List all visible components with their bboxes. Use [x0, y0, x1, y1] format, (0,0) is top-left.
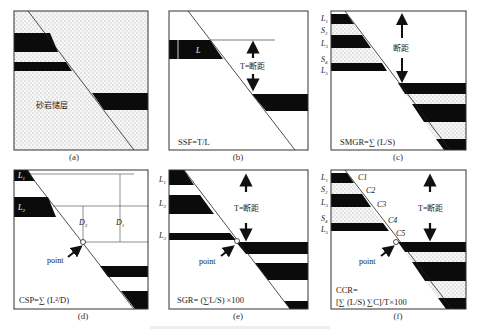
panel-f: L1 S2 L3 S4 L5 C1 C2 C3 C4 C5 T=断距 point…: [320, 170, 466, 321]
layer-label-l1: L1: [320, 173, 328, 183]
layer-label-s4: S4: [321, 214, 328, 224]
sand-bed: [405, 252, 466, 262]
layer-label-l3: L3: [320, 39, 328, 49]
point-marker: [394, 240, 399, 245]
panel-b: L T=断距 SSF=T/L (b): [169, 11, 308, 162]
caption-e: (e): [233, 311, 243, 321]
layer-label-l5: L5: [320, 225, 328, 235]
formula-ccr-line2: [∑ (L/S) ∑C]/T×100: [336, 297, 407, 307]
layer-label-s2: S2: [321, 26, 328, 36]
formula-csp: CSP=∑ (L²/D): [19, 295, 69, 305]
shale-bed: [331, 223, 389, 231]
shale-bed: [169, 233, 236, 240]
layer-label-s2: S2: [321, 185, 328, 195]
sandstone-reservoir-label: 砂岩储层: [36, 100, 68, 110]
panel-c: L1 S2 L3 S4 L5 断距 SMGR=∑ (L/S) (c): [320, 11, 466, 162]
layer-label-l3: L3: [158, 231, 166, 241]
point-marker: [81, 240, 86, 245]
contact-label-c5: C5: [396, 229, 405, 238]
throw-label: T=断距: [234, 203, 259, 213]
throw-label: T=断距: [240, 61, 265, 71]
layer-label-l1: L1: [158, 175, 166, 185]
bed-thickness-label: L: [195, 46, 201, 55]
contact-label-c3: C3: [377, 200, 386, 209]
shale-bed: [100, 266, 148, 277]
shale-bed: [398, 242, 466, 252]
caption-c: (c): [393, 152, 403, 162]
point-label: point: [199, 257, 216, 266]
point-marker: [235, 239, 240, 244]
contact-label-c2: C2: [366, 186, 375, 195]
shale-bed: [331, 63, 387, 71]
shale-bed: [398, 83, 466, 94]
caption-f: (f): [394, 311, 403, 321]
layer-label-l2: L2: [158, 199, 166, 209]
caption-a: (a): [69, 152, 79, 162]
panel-a: 砂岩储层 (a): [14, 11, 148, 162]
layer-label-s4: S4: [321, 55, 328, 65]
formula-sgr: SGR= (∑L/S) ×100: [177, 295, 244, 305]
formula-ssf: SSF=T/L: [178, 137, 210, 147]
caption-b: (b): [233, 152, 244, 162]
panel-e: L1 L2 L3 T=断距 point SGR= (∑L/S) ×100 (e): [158, 170, 308, 321]
shale-bed: [14, 62, 72, 71]
panel-d: L1 L2 D2 D1 point CSP=∑ (L²/D) (d): [14, 170, 148, 321]
contact-label-c4: C4: [388, 216, 397, 225]
point-label: point: [47, 256, 64, 265]
formula-ccr-line1: CCR=: [336, 285, 358, 295]
formula-smgr: SMGR=∑ (L/S): [340, 137, 395, 147]
contact-label-c1: C1: [358, 173, 367, 182]
caption-d: (d): [78, 311, 89, 321]
throw-label: T=断距: [418, 203, 443, 213]
figure-canvas: 砂岩储层 (a) L T=断距 SSF=T/L (b): [0, 0, 478, 335]
figure-caption-faint: [150, 326, 330, 329]
layer-label-l5: L5: [320, 66, 328, 76]
layer-label-l1: L1: [320, 14, 328, 24]
point-label: point: [359, 257, 376, 266]
throw-label: 断距: [393, 43, 409, 53]
layer-label-l3: L3: [320, 198, 328, 208]
